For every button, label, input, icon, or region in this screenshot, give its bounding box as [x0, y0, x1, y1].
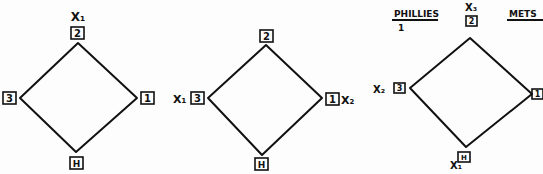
diamond-3-marker-bottom: X₁ [450, 160, 462, 171]
diamond-1-second-base: 2 [71, 27, 84, 39]
diamond-3-first-base: 1 [532, 89, 543, 99]
svg-text:2: 2 [469, 17, 475, 26]
svg-text:1: 1 [144, 93, 151, 104]
svg-text:2: 2 [74, 28, 81, 39]
diamond-3-marker-left: X₂ [373, 84, 385, 95]
svg-text:1: 1 [329, 94, 336, 105]
team-right-name: METS [509, 9, 537, 19]
diamond-1-third-base: 3 [3, 92, 16, 104]
diamond-3-second-base: 2 [466, 16, 477, 26]
svg-text:H: H [258, 160, 266, 170]
diamond-2-marker-right: X₂ [341, 94, 354, 107]
team-left-name: PHILLIES [394, 9, 439, 19]
svg-text:2: 2 [263, 31, 270, 42]
svg-text:3: 3 [194, 93, 201, 104]
team-left-score: 1 [398, 23, 404, 33]
diagram-svg: 2 3 1 H X₁ 2 3 1 H X₁ X₂ 2 3 1 [0, 0, 543, 174]
svg-text:3: 3 [6, 93, 13, 104]
diamond-3 [410, 38, 532, 147]
diamond-1-marker-top: X₁ [71, 10, 86, 24]
diamond-1-first-base: 1 [141, 92, 154, 104]
baseball-diamonds-figure: 2 3 1 H X₁ 2 3 1 H X₁ X₂ 2 3 1 [0, 0, 543, 174]
svg-text:1: 1 [535, 90, 541, 99]
diamond-3-marker-top: X₃ [465, 2, 477, 13]
diamond-3-third-base: 3 [394, 83, 405, 93]
svg-text:3: 3 [397, 84, 403, 93]
diamond-2-home-plate: H [255, 158, 268, 170]
svg-text:H: H [73, 159, 81, 169]
diamond-2-first-base: 1 [326, 93, 339, 105]
diamond-1-home-plate: H [70, 157, 83, 169]
diamond-2-second-base: 2 [260, 30, 273, 42]
diamond-2-third-base: 3 [191, 92, 204, 104]
diamond-1 [20, 43, 137, 152]
diamond-2-marker-left: X₁ [173, 93, 186, 106]
diamond-2 [208, 45, 322, 155]
